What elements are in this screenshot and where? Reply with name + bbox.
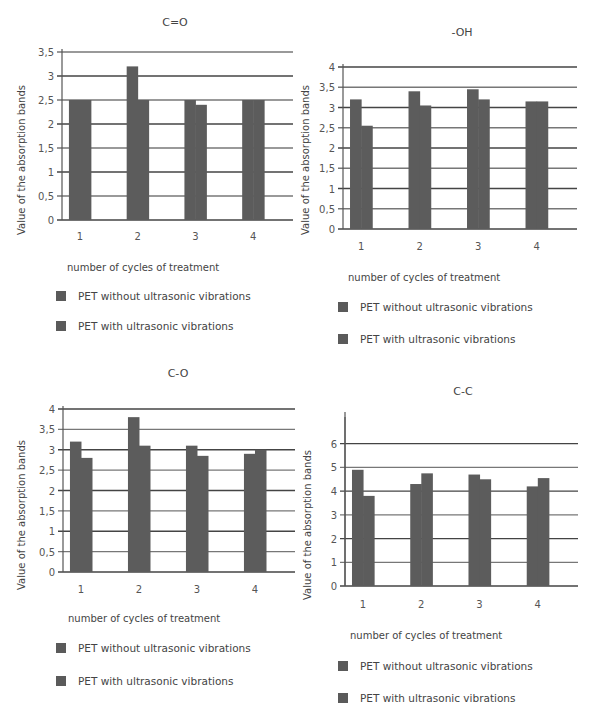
y-tick-label: 3 bbox=[329, 103, 335, 114]
bar bbox=[255, 450, 267, 572]
chart-3: 00,511,522,533,541234 bbox=[39, 404, 295, 595]
legend-label: PET without ultrasonic vibrations bbox=[360, 660, 533, 672]
x-tick-label: 3 bbox=[476, 599, 482, 610]
legend-label: PET with ultrasonic vibrations bbox=[360, 692, 515, 704]
y-tick-label: 2 bbox=[329, 143, 335, 154]
bar bbox=[537, 101, 549, 229]
legend-swatch bbox=[338, 334, 348, 344]
y-tick-label: 0 bbox=[329, 224, 335, 235]
y-tick-label: 2,5 bbox=[38, 95, 54, 106]
bar bbox=[242, 100, 253, 220]
y-tick-label: 4 bbox=[49, 404, 55, 415]
bar bbox=[184, 100, 195, 220]
bar bbox=[526, 101, 538, 229]
bar bbox=[244, 454, 256, 572]
x-axis-label: number of cycles of treatment bbox=[350, 630, 502, 641]
y-tick-label: 2 bbox=[48, 119, 54, 130]
y-tick-label: 2 bbox=[49, 486, 55, 497]
legend-swatch bbox=[56, 291, 66, 301]
x-tick-label: 4 bbox=[535, 599, 541, 610]
y-tick-label: 1,5 bbox=[319, 163, 335, 174]
bar bbox=[195, 105, 206, 220]
bar bbox=[69, 100, 80, 220]
legend-item: PET without ultrasonic vibrations bbox=[56, 290, 251, 302]
x-axis-label: number of cycles of treatment bbox=[67, 262, 219, 273]
y-tick-label: 1,5 bbox=[38, 143, 54, 154]
y-tick-label: 1 bbox=[48, 167, 54, 178]
y-tick-label: 2,5 bbox=[319, 123, 335, 134]
bar bbox=[127, 66, 138, 220]
bar bbox=[527, 486, 539, 586]
chart-1: 00,511,522,533,51234 bbox=[38, 47, 293, 242]
legend-item: PET without ultrasonic vibrations bbox=[338, 660, 533, 672]
legend-swatch bbox=[338, 693, 348, 703]
x-tick-label: 2 bbox=[416, 241, 422, 252]
legend-label: PET without ultrasonic vibrations bbox=[360, 301, 533, 313]
bar bbox=[186, 446, 198, 572]
legend-item: PET with ultrasonic vibrations bbox=[338, 692, 515, 704]
bar bbox=[70, 442, 82, 572]
legend-item: PET without ultrasonic vibrations bbox=[338, 301, 533, 313]
y-axis-label: Value of the absorption bands bbox=[16, 440, 27, 590]
legend-item: PET with ultrasonic vibrations bbox=[338, 333, 515, 345]
y-tick-label: 0 bbox=[331, 581, 337, 592]
y-tick-label: 2 bbox=[331, 534, 337, 545]
y-axis-label: Value of the absorption bands bbox=[16, 85, 27, 235]
y-tick-label: 4 bbox=[329, 62, 335, 73]
bar bbox=[253, 100, 264, 220]
y-tick-label: 0,5 bbox=[319, 204, 335, 215]
legend-label: PET with ultrasonic vibrations bbox=[78, 320, 233, 332]
y-tick-label: 2,5 bbox=[39, 465, 55, 476]
x-tick-label: 4 bbox=[252, 584, 258, 595]
y-tick-label: 6 bbox=[331, 439, 337, 450]
x-axis-label: number of cycles of treatment bbox=[68, 613, 220, 624]
bar bbox=[409, 91, 421, 229]
bar bbox=[361, 126, 373, 229]
bar bbox=[421, 473, 433, 586]
bar bbox=[478, 99, 490, 229]
bar bbox=[468, 475, 480, 586]
bar bbox=[197, 456, 209, 572]
legend-label: PET with ultrasonic vibrations bbox=[360, 333, 515, 345]
y-tick-label: 0,5 bbox=[38, 191, 54, 202]
legend-swatch bbox=[56, 676, 66, 686]
x-tick-label: 3 bbox=[475, 241, 481, 252]
y-tick-label: 3,5 bbox=[319, 82, 335, 93]
bar bbox=[538, 478, 550, 586]
x-tick-label: 3 bbox=[194, 584, 200, 595]
y-tick-label: 1,5 bbox=[39, 506, 55, 517]
y-tick-label: 4 bbox=[331, 486, 337, 497]
legend-item: PET with ultrasonic vibrations bbox=[56, 675, 233, 687]
bar bbox=[467, 89, 479, 229]
chart-4: 01234561234 bbox=[331, 412, 578, 610]
y-tick-label: 3 bbox=[331, 510, 337, 521]
y-tick-label: 3,5 bbox=[38, 47, 54, 58]
bar bbox=[80, 100, 91, 220]
x-tick-label: 3 bbox=[192, 231, 198, 242]
chart-2: 00,511,522,533,541234 bbox=[319, 62, 577, 252]
y-tick-label: 1 bbox=[49, 526, 55, 537]
y-tick-label: 5 bbox=[331, 462, 337, 473]
x-tick-label: 1 bbox=[358, 241, 364, 252]
legend-label: PET without ultrasonic vibrations bbox=[78, 642, 251, 654]
legend-label: PET with ultrasonic vibrations bbox=[78, 675, 233, 687]
x-tick-label: 4 bbox=[250, 231, 256, 242]
bar bbox=[350, 99, 362, 229]
x-tick-label: 1 bbox=[360, 599, 366, 610]
legend-item: PET with ultrasonic vibrations bbox=[56, 320, 233, 332]
y-tick-label: 1 bbox=[329, 184, 335, 195]
x-tick-label: 1 bbox=[77, 231, 83, 242]
x-tick-label: 2 bbox=[134, 231, 140, 242]
bar bbox=[363, 496, 375, 586]
bar bbox=[128, 417, 140, 572]
bar bbox=[138, 100, 149, 220]
x-axis-label: number of cycles of treatment bbox=[348, 272, 500, 283]
y-axis-label: Value of the absorption bands bbox=[300, 85, 311, 235]
x-tick-label: 1 bbox=[78, 584, 84, 595]
bar bbox=[352, 470, 364, 586]
chart-title: C=O bbox=[135, 16, 215, 29]
y-tick-label: 3 bbox=[49, 445, 55, 456]
y-tick-label: 0 bbox=[48, 215, 54, 226]
legend-swatch bbox=[338, 661, 348, 671]
legend-swatch bbox=[56, 643, 66, 653]
